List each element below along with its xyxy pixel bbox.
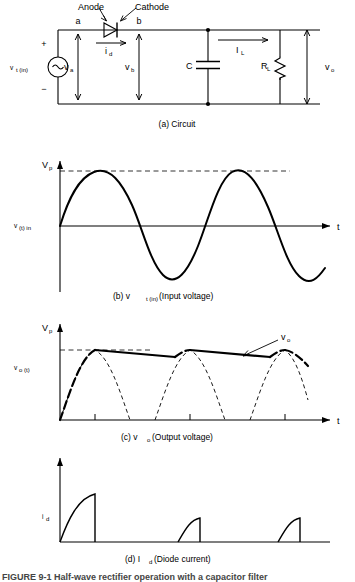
panel-c-vo-leader bbox=[243, 340, 278, 356]
node-b-label: b bbox=[136, 16, 141, 26]
panel-b-ylabel: v bbox=[14, 222, 18, 229]
figure-bottom-caption: FIGURE 9-1 Half-wave rectifier operation… bbox=[2, 572, 268, 582]
caption-c-tail: (Output voltage) bbox=[152, 432, 213, 442]
anode-cathode-leaders bbox=[99, 8, 136, 21]
panel-d-ylabel-sub: d bbox=[46, 516, 49, 522]
diode-current-arrow bbox=[96, 41, 126, 46]
id-label-sub: d bbox=[109, 51, 112, 57]
panel-d-ylabel: i bbox=[42, 513, 43, 520]
node-a-label: a bbox=[75, 16, 80, 26]
panel-b-xlabel: t bbox=[337, 222, 340, 232]
panel-c-peak-sub: p bbox=[49, 328, 53, 334]
source-label-sub: t (in) bbox=[16, 67, 28, 73]
caption-b: (b) v t (in) (Input voltage) bbox=[113, 291, 214, 302]
capacitor-label: C bbox=[186, 61, 193, 71]
panel-d-axes bbox=[57, 458, 330, 542]
va-measurement-arrow bbox=[75, 34, 81, 100]
panel-b-peak-label: V bbox=[42, 160, 48, 170]
va-label: v bbox=[64, 62, 69, 72]
caption-d-tail: (Diode current) bbox=[154, 554, 211, 564]
panel-c-curve-label: v bbox=[281, 332, 286, 342]
vb-measurement-arrow bbox=[136, 34, 142, 100]
panel-d-pulse-1 bbox=[60, 494, 95, 542]
caption-c: (c) v o (Output voltage) bbox=[121, 432, 213, 443]
anode-label: Anode bbox=[78, 2, 104, 12]
panel-b-peak-sub: p bbox=[49, 165, 53, 171]
caption-d-main: (d) I bbox=[125, 554, 140, 564]
panel-b-axes bbox=[57, 161, 330, 292]
caption-c-main: (c) v bbox=[121, 432, 138, 442]
cathode-label: Cathode bbox=[135, 2, 169, 12]
panel-d-pulse-2 bbox=[178, 518, 200, 542]
source-plus-sign: + bbox=[41, 39, 46, 49]
caption-b-main: (b) v bbox=[113, 291, 131, 301]
panel-c-xlabel: t bbox=[337, 416, 340, 426]
caption-b-sub: t (in) bbox=[146, 296, 158, 302]
vb-label: v bbox=[125, 62, 130, 72]
panel-c-ylabel-sub: o (t) bbox=[19, 367, 30, 373]
vo-label: v bbox=[325, 62, 330, 72]
id-label: i bbox=[105, 46, 107, 56]
il-label-sub: L bbox=[241, 50, 245, 56]
source-label: v bbox=[10, 64, 14, 71]
panel-b-ylabel-sub: (t) in bbox=[19, 225, 31, 231]
load-label-sub: L bbox=[267, 66, 271, 72]
caption-a: (a) Circuit bbox=[159, 119, 196, 129]
figure-bottom-caption-text: FIGURE 9-1 Half-wave rectifier operation… bbox=[2, 572, 268, 582]
circuit-wires bbox=[58, 30, 280, 104]
va-label-sub: a bbox=[70, 67, 74, 73]
vo-measurement-arrow bbox=[280, 30, 320, 104]
caption-d: (d) I d (Diode current) bbox=[125, 554, 211, 565]
load-current-arrow bbox=[218, 38, 268, 43]
capacitor-symbol bbox=[196, 28, 220, 106]
panel-b-input-voltage: V p v (t) in t (b) v t (in) (Input volta… bbox=[14, 160, 340, 302]
panel-c-peak-label: V bbox=[42, 323, 48, 333]
panel-c-ylabel: v bbox=[14, 364, 18, 371]
vb-label-sub: b bbox=[131, 67, 135, 73]
panel-c-charging-segments bbox=[60, 350, 308, 420]
load-resistor-symbol bbox=[275, 56, 285, 80]
circuit-diagram: + − v t (in) Anode Cathode a b v a bbox=[10, 2, 335, 129]
source-minus-sign: − bbox=[41, 84, 46, 94]
caption-b-tail: (Input voltage) bbox=[159, 291, 214, 301]
vo-label-sub: o bbox=[331, 67, 335, 73]
caption-d-sub: d bbox=[149, 559, 152, 565]
figure-half-wave-rectifier: + − v t (in) Anode Cathode a b v a bbox=[0, 0, 355, 582]
panel-c-output-voltage: v o V p v o (t) t (c) v o (Output voltag… bbox=[14, 323, 340, 443]
caption-c-sub: o bbox=[147, 437, 151, 443]
panel-c-unfiltered-humps bbox=[60, 350, 308, 420]
panel-d-pulse-3 bbox=[278, 518, 300, 542]
panel-d-diode-current: i d (d) I d (Diode current) bbox=[42, 458, 330, 565]
il-label: I bbox=[236, 45, 239, 55]
panel-c-curve-label-sub: o bbox=[287, 337, 291, 343]
